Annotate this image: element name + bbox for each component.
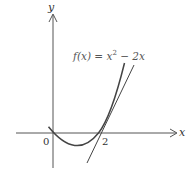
chart: y x 0 2 f(x) = x2 − 2x [0,0,190,171]
tangent-line [87,65,134,163]
function-label: f(x) = x2 − 2x [73,50,145,61]
y-axis-label: y [48,2,54,13]
x-axis-label: x [179,127,185,138]
origin-label: 0 [43,137,49,147]
x-tick-label-2: 2 [102,137,108,147]
function-label-tail: − 2x [117,50,145,62]
function-label-main: f(x) = x [73,50,112,62]
plot-area [0,0,190,171]
